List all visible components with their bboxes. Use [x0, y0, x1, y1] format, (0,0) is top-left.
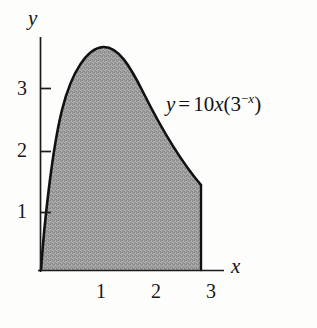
x-tick-label-2: 2 — [151, 281, 161, 301]
y-tick-label-2: 2 — [17, 140, 27, 160]
x-axis-label: x — [231, 256, 240, 277]
x-tick-label-1: 1 — [96, 281, 106, 301]
figure-container: y x 3 2 1 1 2 3 y=10x(3−x) — [0, 0, 317, 328]
equation-exponent: −x — [241, 91, 254, 106]
equation-variable: x — [214, 92, 223, 116]
plot-canvas — [0, 0, 317, 328]
equation-open-paren: ( — [224, 92, 231, 116]
equation-close-paren: ) — [254, 92, 261, 116]
equation-coefficient: 10 — [193, 92, 214, 116]
equation-lhs: y — [166, 92, 175, 116]
equation-annotation: y=10x(3−x) — [166, 94, 261, 115]
equation-base: 3 — [231, 92, 242, 116]
y-axis-label: y — [28, 8, 37, 29]
x-tick-label-3: 3 — [206, 281, 216, 301]
y-tick-label-3: 3 — [17, 78, 27, 98]
equation-equals: = — [175, 92, 193, 116]
y-tick-label-1: 1 — [17, 201, 27, 221]
shaded-area — [38, 40, 208, 275]
